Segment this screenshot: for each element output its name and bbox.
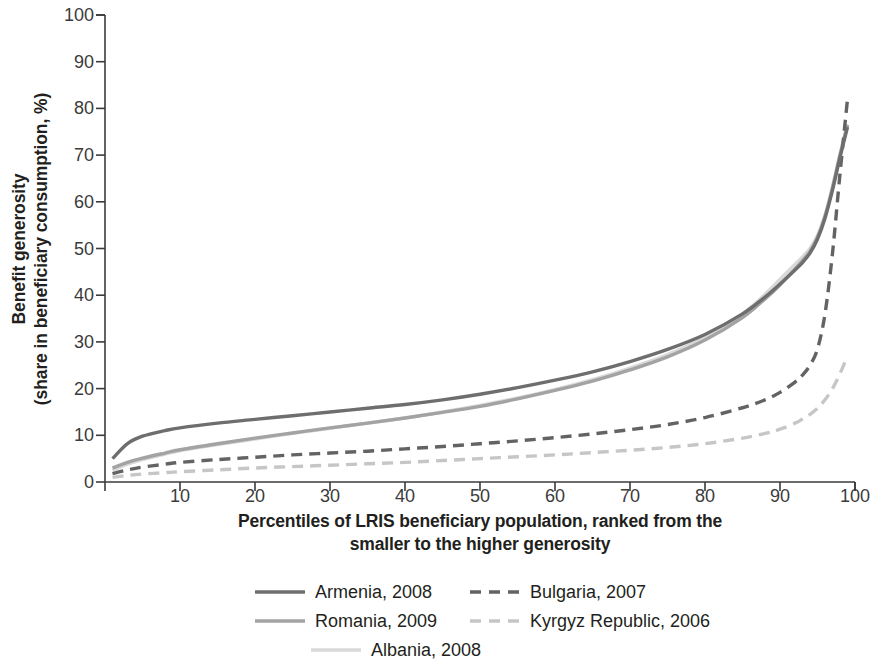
x-axis-title-line-2: smaller to the higher generosity	[110, 533, 850, 556]
legend-item-romania[interactable]: Romania, 2009	[255, 607, 437, 635]
legend-swatch-kyrgyz-icon	[470, 614, 520, 628]
legend-label-kyrgyz: Kyrgyz Republic, 2006	[530, 612, 710, 630]
legend-swatch-romania-icon	[255, 614, 305, 628]
legend-swatch-albania-icon	[311, 643, 361, 657]
legend-swatch-armenia-icon	[255, 585, 305, 599]
legend-item-armenia[interactable]: Armenia, 2008	[255, 578, 432, 606]
legend-label-romania: Romania, 2009	[315, 612, 437, 630]
x-axis-title: Percentiles of LRIS beneficiary populati…	[110, 510, 850, 556]
x-axis-title-line-1: Percentiles of LRIS beneficiary populati…	[110, 510, 850, 533]
legend-swatch-bulgaria-icon	[470, 585, 520, 599]
legend-label-bulgaria: Bulgaria, 2007	[530, 583, 646, 601]
legend-item-bulgaria[interactable]: Bulgaria, 2007	[470, 578, 646, 606]
legend-item-kyrgyz[interactable]: Kyrgyz Republic, 2006	[470, 607, 710, 635]
legend-label-albania: Albania, 2008	[371, 641, 481, 659]
legend-label-armenia: Armenia, 2008	[315, 583, 432, 601]
legend-item-albania[interactable]: Albania, 2008	[311, 636, 481, 664]
series-line-armenia	[113, 127, 848, 459]
series-line-albania	[113, 125, 848, 471]
series-line-romania	[113, 125, 848, 468]
series-line-bulgaria	[113, 99, 848, 474]
plot-area	[0, 0, 885, 500]
chart-legend: Armenia, 2008Bulgaria, 2007Romania, 2009…	[255, 578, 815, 664]
chart-figure: Benefit generosity (share in beneficiary…	[0, 0, 885, 669]
